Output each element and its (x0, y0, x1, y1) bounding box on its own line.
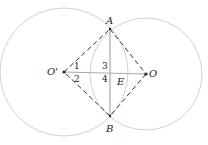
label-o-prime: O' (47, 66, 58, 77)
label-b: B (105, 123, 113, 134)
label-e: E (116, 76, 125, 87)
diagram-canvas: A B O O' E 1 2 3 4 (0, 0, 208, 145)
label-a: A (105, 15, 113, 26)
angle-2: 2 (74, 74, 80, 84)
geometry-diagram: A B O O' E 1 2 3 4 (0, 0, 208, 145)
angle-3: 3 (102, 61, 108, 71)
point-o-prime (62, 70, 65, 73)
angle-1: 1 (74, 61, 80, 71)
angle-4: 4 (102, 74, 108, 84)
point-o (144, 72, 147, 75)
point-b (109, 115, 111, 117)
label-o: O (149, 68, 157, 79)
point-a (109, 28, 111, 30)
